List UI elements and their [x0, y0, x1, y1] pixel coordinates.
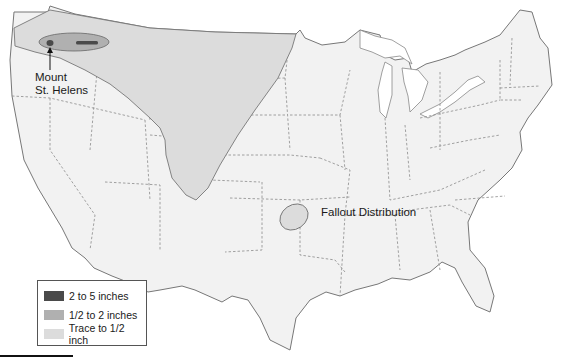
fallout-zone-heavy-volcano — [47, 40, 54, 46]
legend-swatch-trace — [44, 329, 64, 339]
legend-item-trace: Trace to 1/2 inch — [44, 324, 146, 343]
fallout-distribution-label: Fallout Distribution — [321, 206, 416, 219]
volcano-label: Mount St. Helens — [35, 71, 88, 97]
legend-label-trace: Trace to 1/2 inch — [69, 322, 146, 346]
legend-item-heavy: 2 to 5 inches — [44, 286, 146, 305]
legend-label-heavy: 2 to 5 inches — [69, 290, 129, 302]
volcano-label-line1: Mount — [35, 71, 88, 84]
legend: 2 to 5 inches 1/2 to 2 inches Trace to 1… — [37, 280, 147, 346]
legend-swatch-heavy — [44, 291, 64, 301]
legend-label-medium: 1/2 to 2 inches — [69, 309, 137, 321]
legend-swatch-medium — [44, 310, 64, 320]
scale-bar — [0, 355, 73, 357]
fallout-zone-heavy-band — [76, 41, 98, 45]
volcano-label-line2: St. Helens — [35, 84, 88, 97]
